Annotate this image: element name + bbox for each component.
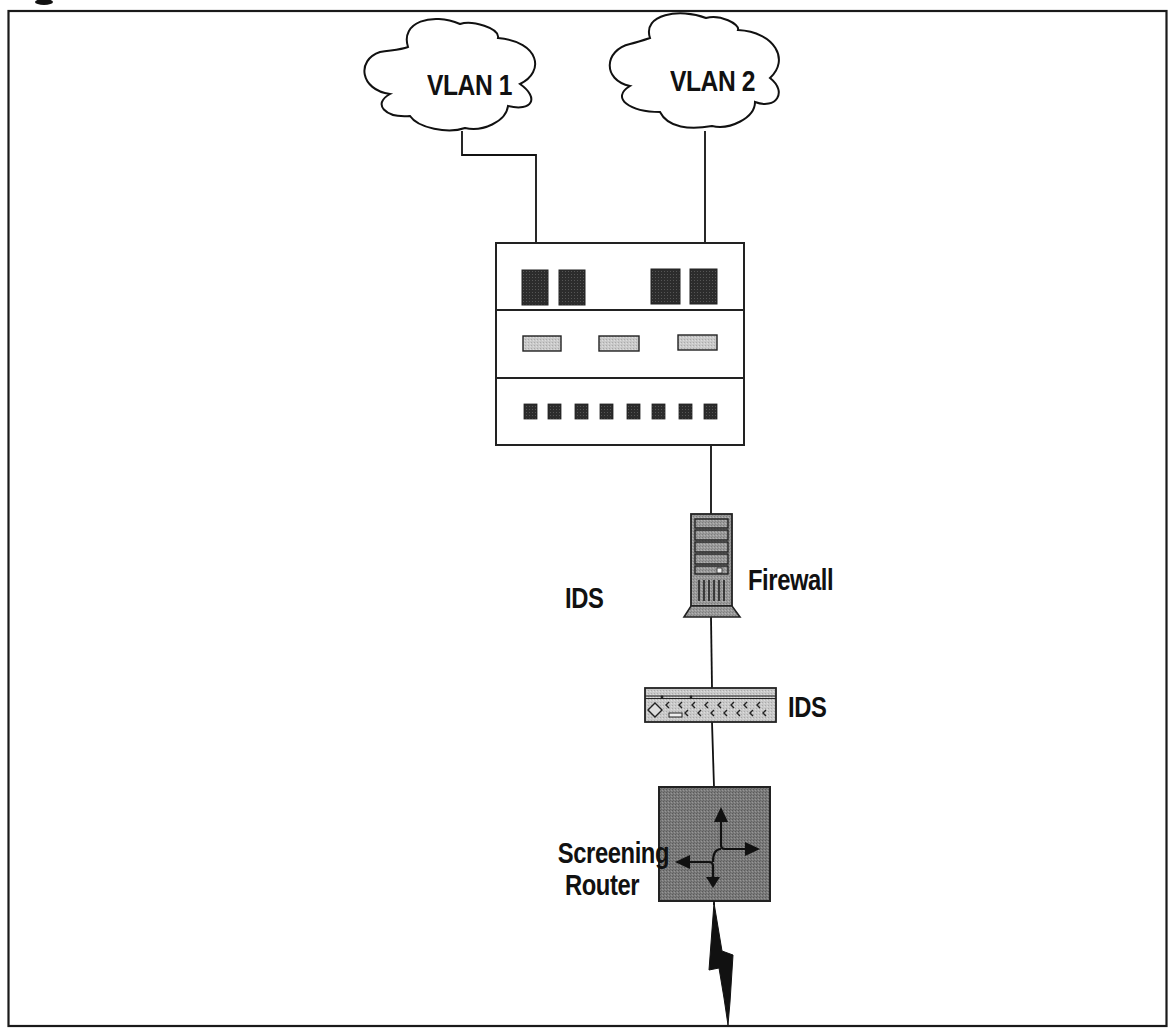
port-icon[interactable] <box>575 404 588 419</box>
slot-icon <box>678 335 717 350</box>
port-icon[interactable] <box>627 404 640 419</box>
vlan1-label: VLAN 1 <box>427 68 512 101</box>
port-icon[interactable] <box>522 270 548 305</box>
port-icon[interactable] <box>524 404 537 419</box>
slot-icon <box>599 336 639 351</box>
screening-router-device[interactable] <box>659 787 770 901</box>
rack-appliance-icon <box>645 688 776 722</box>
port-icon[interactable] <box>652 404 665 419</box>
port-icon[interactable] <box>704 404 717 419</box>
firewall-label: Firewall <box>748 565 833 597</box>
port-icon[interactable] <box>600 404 613 419</box>
wan-link <box>709 901 733 1025</box>
firewall-device[interactable] <box>684 514 740 617</box>
port-icon[interactable] <box>679 404 692 419</box>
ids-left-label: IDS <box>565 583 603 615</box>
port-icon[interactable] <box>548 404 561 419</box>
router-label-line1: Screening <box>558 838 656 870</box>
router-label-line2: Router <box>557 870 647 902</box>
port-icon[interactable] <box>690 269 717 304</box>
edge-ids-router <box>712 722 714 787</box>
vlan2-label: VLAN 2 <box>670 64 755 97</box>
port-icon[interactable] <box>651 269 680 304</box>
figure-title-fragment <box>35 0 53 5</box>
lightning-bolt-icon <box>709 903 733 1025</box>
ids-label: IDS <box>788 692 826 724</box>
edge-firewall-ids <box>711 617 712 688</box>
slot-icon <box>523 336 561 351</box>
ids-device[interactable] <box>645 688 776 722</box>
port-icon[interactable] <box>559 270 585 305</box>
tower-server-icon <box>684 514 740 617</box>
switch-device[interactable] <box>496 243 744 445</box>
switch-module-slots <box>523 335 717 351</box>
